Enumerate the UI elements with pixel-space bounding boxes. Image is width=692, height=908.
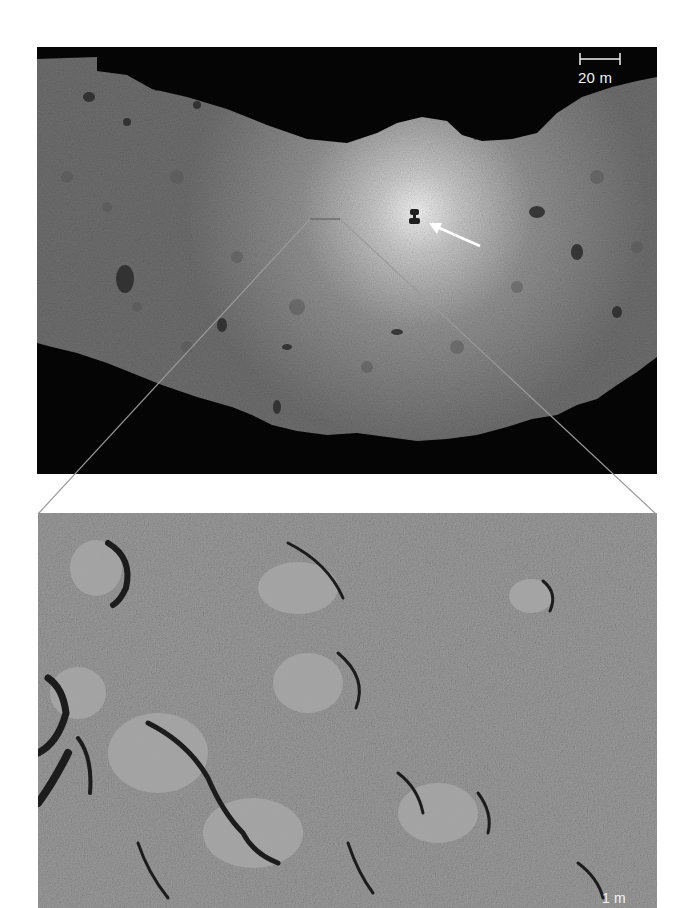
asteroid-overview-render (37, 47, 657, 474)
asteroid-overview-image: 20 m (37, 47, 657, 474)
scale-label-1m: 1 m (602, 890, 626, 906)
boulder-closeup-image: 1 m (38, 513, 657, 908)
boulder-closeup-render (38, 513, 657, 908)
scale-label-20m: 20 m (578, 69, 612, 86)
